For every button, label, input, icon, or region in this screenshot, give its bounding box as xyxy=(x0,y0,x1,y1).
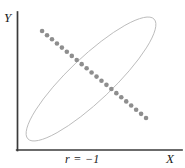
confidence-ellipse xyxy=(13,3,170,155)
data-point xyxy=(114,91,119,96)
data-point xyxy=(124,99,129,104)
data-point xyxy=(139,112,144,117)
data-point xyxy=(104,83,109,88)
data-point xyxy=(60,45,65,50)
data-point xyxy=(89,70,94,75)
data-point xyxy=(69,54,74,59)
y-axis-label: Y xyxy=(4,11,11,24)
data-point xyxy=(79,62,84,67)
data-point xyxy=(50,37,55,42)
data-point xyxy=(134,107,139,112)
data-point xyxy=(74,58,79,63)
data-point xyxy=(65,49,70,54)
data-point xyxy=(84,66,89,71)
correlation-annotation: r = −1 xyxy=(65,152,100,167)
data-point xyxy=(99,78,104,83)
scatter-plot-figure: Y X r = −1 xyxy=(0,0,185,168)
data-point xyxy=(129,103,134,108)
data-point-group xyxy=(40,29,149,121)
data-point xyxy=(109,87,114,92)
data-point xyxy=(144,116,149,121)
data-point xyxy=(94,74,99,79)
data-point xyxy=(40,29,45,34)
data-point xyxy=(45,33,50,38)
confidence-ellipse-group xyxy=(13,3,170,155)
data-point xyxy=(55,41,60,46)
x-axis-label: X xyxy=(166,152,174,165)
data-point xyxy=(119,95,124,100)
plot-canvas xyxy=(0,0,185,168)
